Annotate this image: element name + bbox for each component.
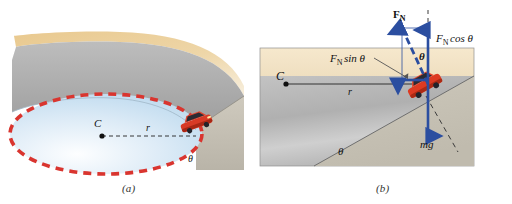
center-dot	[99, 133, 104, 138]
normal-horizontal-label-sub: N	[337, 58, 343, 67]
normal-vertical-label-fn: cos θ	[450, 32, 473, 44]
sky-band	[260, 48, 474, 76]
panel-b-center-label: C	[276, 69, 285, 83]
normal-force-label-sub: N	[400, 14, 406, 23]
panel-a-radius-label: r	[146, 122, 150, 133]
theta-top-label: θ	[419, 50, 425, 62]
figure-container: θ C r (a)	[0, 0, 512, 204]
normal-vertical-label-sub: N	[443, 38, 449, 47]
panel-a: θ C r (a)	[0, 0, 256, 204]
panel-a-center-label: C	[94, 117, 102, 129]
panel-b-graphic: FN FNcos θ FNsin θ θ mg C r θ	[256, 0, 512, 178]
normal-force-label: FN	[393, 8, 406, 23]
panel-a-graphic: θ C r	[0, 0, 256, 178]
panel-b-theta-incline-label: θ	[338, 145, 344, 157]
normal-horizontal-label-fn: sin θ	[344, 52, 366, 64]
panel-b-radius-label: r	[348, 86, 352, 97]
center-dot-b	[283, 81, 288, 86]
panel-b: FN FNcos θ FNsin θ θ mg C r θ (b)	[256, 0, 512, 204]
normal-vertical-label: FNcos θ	[435, 32, 473, 47]
panel-a-caption: (a)	[122, 182, 135, 194]
weight-label: mg	[420, 138, 434, 150]
panel-b-caption: (b)	[376, 182, 389, 194]
panel-a-theta-label: θ	[188, 153, 193, 164]
